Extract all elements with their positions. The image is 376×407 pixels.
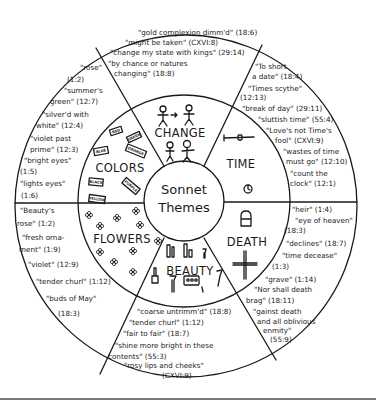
quote: white" (12:4)	[36, 121, 83, 130]
quote: "summer's	[64, 86, 103, 95]
stick-figures-transform-icon	[166, 141, 194, 163]
flower-icon	[136, 221, 143, 228]
theme-label-flowers: FLOWERS	[93, 232, 151, 246]
flower-icon	[110, 258, 117, 265]
quote: "Times scythe"	[248, 84, 302, 93]
flower-icon	[154, 237, 161, 244]
nail-polish-icon	[152, 268, 158, 283]
theme-label-colors: COLORS	[95, 161, 144, 175]
quote: green" (12:7)	[50, 97, 98, 106]
quote: fool" (CXVI:9)	[275, 136, 324, 145]
quote: contents" (55:3)	[108, 352, 167, 361]
color-tag-blue: BLUE	[93, 146, 108, 155]
flower-icon	[129, 247, 136, 254]
quote: "Beauty's	[20, 206, 55, 215]
quote: "time decease"	[282, 251, 337, 260]
quote: "shine more bright in these	[115, 341, 214, 350]
clock-icon	[244, 185, 252, 193]
quote: "declines" (18:7)	[286, 239, 346, 248]
quote: (12:13)	[240, 93, 267, 102]
flower-icon	[129, 268, 136, 275]
quote: "tender churl" (1:12)	[129, 318, 204, 327]
quote: "bright eyes"	[24, 156, 71, 165]
quote: (1:5)	[20, 167, 37, 176]
center-title-line2: Themes	[157, 200, 210, 215]
lipstick-icon	[184, 244, 192, 257]
theme-beauty: BEAUTY "coarse untrimm'd" (18:8) "tender…	[108, 244, 231, 380]
tombstone-icon	[241, 211, 251, 226]
quote: "break of day" (29:11)	[242, 104, 322, 113]
makeup-brush-icon	[170, 276, 176, 292]
quote: (55:9)	[270, 335, 292, 344]
quote: "buds of May"	[46, 294, 96, 303]
theme-label-death: DEATH	[227, 235, 267, 249]
center-title-line1: Sonnet	[161, 182, 207, 197]
flower-icon	[96, 222, 103, 229]
theme-label-time: TIME	[226, 157, 256, 171]
theme-death: DEATH "heir" (1:4) "eye of heaven" (18:3…	[227, 205, 353, 344]
quote: "Love's not Time's	[266, 126, 332, 135]
quote: "tender churl" (1:12)	[36, 277, 111, 286]
quote: prime" (12:3)	[30, 145, 78, 154]
quote: "coarse untrimm'd" (18:8)	[137, 307, 231, 316]
bottom-divider	[0, 398, 376, 400]
quote: rose" (1:2)	[17, 219, 55, 228]
theme-flowers: FLOWERS "Beauty's rose" (1:2) "fresh orn…	[17, 206, 162, 318]
quote: ment" (1:9)	[19, 245, 61, 254]
cross-icon	[233, 251, 257, 279]
quote: "eye of heaven"	[295, 216, 353, 225]
quote: "fresh orna-	[22, 233, 65, 242]
quote: and all oblivious	[257, 317, 316, 326]
quote: (1:3)	[272, 262, 289, 271]
flower-icon	[113, 214, 120, 221]
stick-figures-transform-icon	[158, 105, 194, 126]
color-tag-orange: ORANGE	[125, 144, 146, 158]
scythe-icon	[224, 135, 254, 141]
quote: "fair to fair" (18:7)	[123, 329, 189, 338]
quote: "lights eyes"	[20, 179, 65, 188]
quote: (1:6)	[21, 191, 38, 200]
quote: "sluttish time" (55:4)	[258, 115, 334, 124]
theme-label-beauty: BEAUTY	[166, 264, 214, 278]
quote: must go" (12:10)	[286, 157, 347, 166]
quote: enmity"	[263, 326, 291, 335]
theme-colors: RED GREEN BLUE ORANGE BLACK PURPLE YELLO…	[20, 63, 147, 204]
makeup-brush-icon	[203, 249, 206, 258]
quote: "To short	[255, 62, 287, 71]
svg-text:BLACK: BLACK	[89, 180, 103, 185]
quote: (18:3)	[58, 309, 80, 318]
quote: (18:3)	[284, 226, 306, 235]
quote: "heir" (1:4)	[292, 205, 332, 214]
color-tag-yellow: YELLOW	[87, 194, 105, 203]
quote: "violet past	[30, 134, 71, 143]
quote: (CXVI:9)	[162, 371, 192, 380]
color-tag-red: RED	[109, 126, 122, 135]
quote: "count the	[290, 169, 328, 178]
color-tag-black: BLACK	[89, 178, 104, 186]
quote: "silver'd with	[42, 110, 89, 119]
sonnet-themes-diagram: Sonnet Themes CHANGE "gold complexion di…	[0, 0, 376, 407]
quote: "grave" (1:14)	[265, 275, 316, 284]
quote: "might be taken" (CXVI:8)	[125, 38, 218, 47]
color-tag-purple: PURPLE	[122, 178, 140, 195]
flower-icon	[85, 211, 92, 218]
quote: "Nor shall death	[254, 285, 312, 294]
quote: "violet" (12:9)	[28, 260, 79, 269]
quote: "rosy lips and cheeks"	[124, 361, 204, 370]
quote: "rose"	[80, 63, 102, 72]
quote: "gold complexion dimm'd" (18:6)	[138, 28, 257, 37]
color-tag-green: GREEN	[126, 131, 141, 142]
quote: "by chance or natures	[108, 59, 188, 68]
quote: clock" (12:1)	[290, 179, 336, 188]
flower-icon	[132, 207, 139, 214]
quote: "change my state with kings" (29:14)	[110, 48, 245, 57]
quote: changing" (18:8)	[114, 69, 175, 78]
quote: brag" (18:11)	[246, 296, 295, 305]
theme-label-change: CHANGE	[154, 126, 205, 140]
quote: (1:2)	[67, 75, 84, 84]
quote: a date" (18:4)	[252, 72, 302, 81]
mascara-icon	[167, 245, 174, 257]
quote: "wastes of time	[283, 147, 340, 156]
flower-icon	[96, 248, 103, 255]
quote: "gainst death	[253, 307, 301, 316]
